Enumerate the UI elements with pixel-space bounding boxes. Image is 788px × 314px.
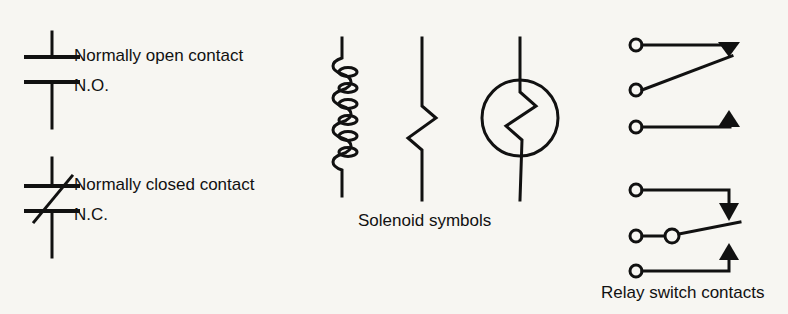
- solenoid-zigzag-symbol: [408, 38, 436, 200]
- relay-switch-contacts-caption: Relay switch contacts: [601, 284, 764, 301]
- normally-open-contact-label: Normally open contact: [74, 47, 243, 64]
- solenoid-helical-coil-symbol: [333, 38, 357, 196]
- relay-upper-contact-group: [630, 39, 740, 133]
- relay-lower-contact-group: [630, 184, 740, 277]
- solenoid-symbols-caption: Solenoid symbols: [358, 212, 491, 229]
- figure-canvas: Normally open contact N.O. Normally clos…: [0, 0, 788, 314]
- normally-open-abbreviation-label: N.O.: [74, 77, 109, 94]
- normally-closed-contact-label: Normally closed contact: [74, 176, 254, 193]
- normally-open-contact-symbol: [26, 32, 78, 128]
- solenoid-circled-zigzag-symbol: [482, 38, 558, 200]
- normally-closed-contact-symbol: [26, 158, 78, 257]
- normally-closed-abbreviation-label: N.C.: [74, 206, 108, 223]
